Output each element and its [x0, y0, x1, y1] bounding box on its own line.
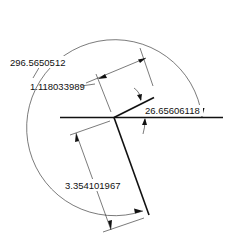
acute-angle-label: 26.65606118 [145, 105, 200, 116]
reflex-angle-label: 296.5650512 [10, 57, 65, 68]
short-dim-line [86, 58, 146, 83]
long-length-label: 3.354101967 [65, 180, 120, 191]
short-ext-line-2 [140, 48, 153, 86]
acute-angle-arrow-lower [142, 118, 147, 125]
reflex-arc-arrow-start [134, 209, 143, 214]
long-dim-arrow-1 [75, 133, 79, 142]
short-ext-line-1 [96, 74, 111, 112]
drawing-canvas: 296.5650512 1.118033989 26.65606118 3.35… [0, 0, 242, 237]
long-dim-arrow-2 [108, 220, 112, 230]
short-length-label: 1.118033989 [30, 81, 85, 92]
long-ext-line-1 [70, 121, 110, 135]
